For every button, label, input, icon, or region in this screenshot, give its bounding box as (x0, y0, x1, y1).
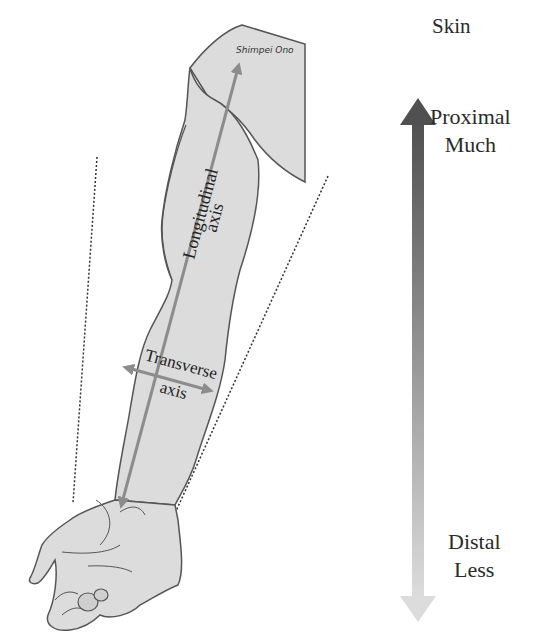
much-text: Much (430, 131, 511, 159)
hand-shape (29, 500, 181, 630)
skin-gradient-arrow (400, 98, 436, 622)
skin-title: Skin (432, 14, 471, 39)
distal-label: Distal Less (448, 528, 501, 584)
proximal-text: Proximal (430, 103, 511, 131)
artist-signature: Shimpei Ono (236, 45, 294, 55)
left-dotted-boundary (73, 157, 97, 503)
fingertip (94, 589, 108, 601)
proximal-label: Proximal Much (430, 103, 511, 159)
less-text: Less (448, 556, 501, 584)
distal-text: Distal (448, 528, 501, 556)
arm-shape (115, 68, 259, 505)
